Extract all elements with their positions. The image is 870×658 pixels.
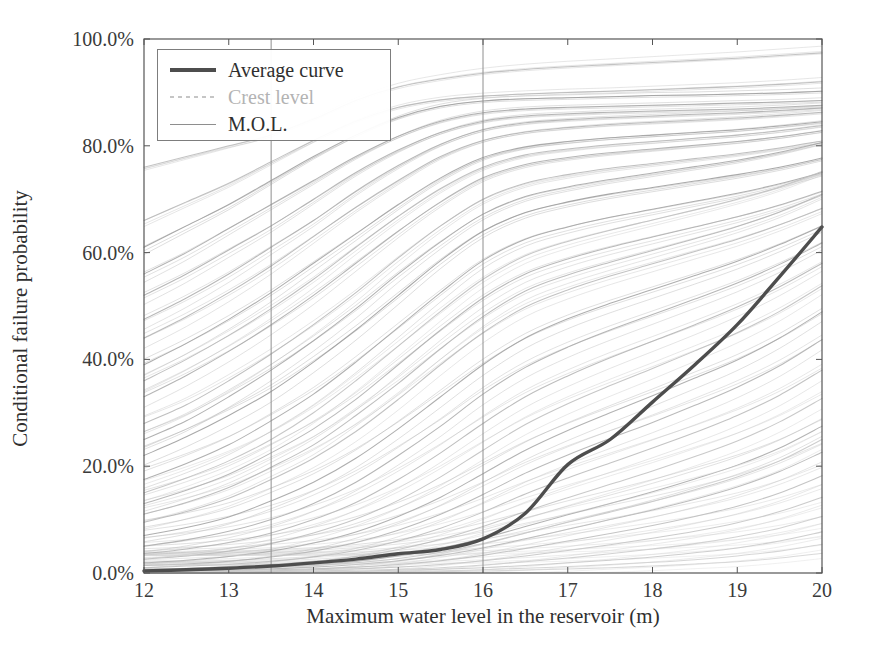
y-tick-label: 80.0% — [0, 134, 134, 157]
chart-legend: Average curve Crest level M.O.L. — [157, 49, 391, 141]
legend-label-mol: M.O.L. — [228, 114, 287, 134]
y-tick-label: 40.0% — [0, 348, 134, 371]
x-tick-label: 17 — [558, 579, 578, 602]
x-tick-label: 20 — [812, 579, 832, 602]
legend-line-mol-icon — [170, 118, 216, 130]
legend-item-average-curve: Average curve — [158, 56, 390, 83]
legend-label-average: Average curve — [228, 60, 344, 80]
y-tick-label: 60.0% — [0, 241, 134, 264]
y-tick-label: 100.0% — [0, 28, 134, 51]
x-tick-label: 19 — [727, 579, 747, 602]
x-tick-label: 16 — [473, 579, 493, 602]
y-tick-label: 20.0% — [0, 455, 134, 478]
x-tick-label: 13 — [219, 579, 239, 602]
legend-label-crest: Crest level — [228, 87, 314, 107]
y-axis-label-wrapper: Conditional failure probability — [0, 0, 36, 658]
x-tick-label: 14 — [304, 579, 324, 602]
y-tick-label: 0.0% — [0, 562, 134, 585]
figure-container: Conditional failure probability Maximum … — [0, 0, 870, 658]
x-axis-label: Maximum water level in the reservoir (m) — [144, 604, 822, 629]
y-axis-label: Conditional failure probability — [8, 149, 33, 489]
x-tick-label: 15 — [388, 579, 408, 602]
chart-plot-area — [0, 0, 870, 658]
legend-line-average-icon — [170, 64, 216, 76]
legend-item-mol: M.O.L. — [158, 110, 390, 137]
legend-line-crest-icon — [170, 91, 216, 103]
x-tick-label: 18 — [643, 579, 663, 602]
x-tick-label: 12 — [134, 579, 154, 602]
legend-item-crest-level: Crest level — [158, 83, 390, 110]
